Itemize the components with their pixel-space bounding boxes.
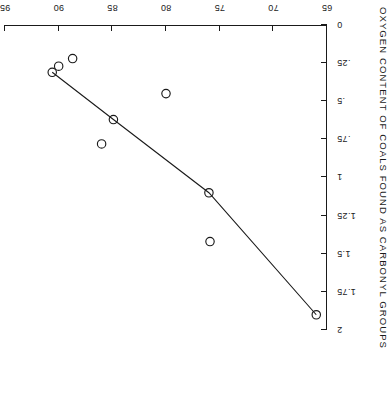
- x-tick-label-65: 65: [322, 3, 333, 13]
- data-layer: [5, 25, 327, 330]
- y-axis-title: OXYGEN CONTENT OF COALS FOUND AS CARBONY…: [378, 7, 389, 349]
- y-tick-label-2: 2: [337, 325, 342, 335]
- x-tick-label-90: 90: [53, 3, 64, 13]
- x-tick-label-95: 95: [0, 3, 10, 13]
- y-tick-label-1: 1: [337, 173, 342, 183]
- x-tick-label-70: 70: [268, 3, 279, 13]
- data-point: [206, 237, 214, 245]
- y-tick-label-1.75: 1.75: [337, 287, 356, 297]
- data-point: [312, 311, 320, 319]
- x-tick-label-85: 85: [107, 3, 118, 13]
- y-tick-label-0: 0: [337, 20, 342, 30]
- x-tick-label-75: 75: [214, 3, 225, 13]
- y-tick-label-.5: .5: [337, 96, 345, 106]
- plot-area: 65707580859095 0.25.5.7511.251.51.752 CA…: [5, 25, 327, 330]
- data-point: [68, 54, 76, 62]
- y-tick-label-.25: .25: [337, 58, 350, 68]
- data-points-group: [48, 54, 320, 319]
- y-tick-label-1.5: 1.5: [337, 249, 350, 259]
- x-tick-label-80: 80: [161, 3, 172, 13]
- y-tick-label-.75: .75: [337, 134, 350, 144]
- y-tick-label-1.25: 1.25: [337, 211, 356, 221]
- data-point: [162, 89, 170, 97]
- data-point: [97, 140, 105, 148]
- fit-line: [52, 72, 316, 314]
